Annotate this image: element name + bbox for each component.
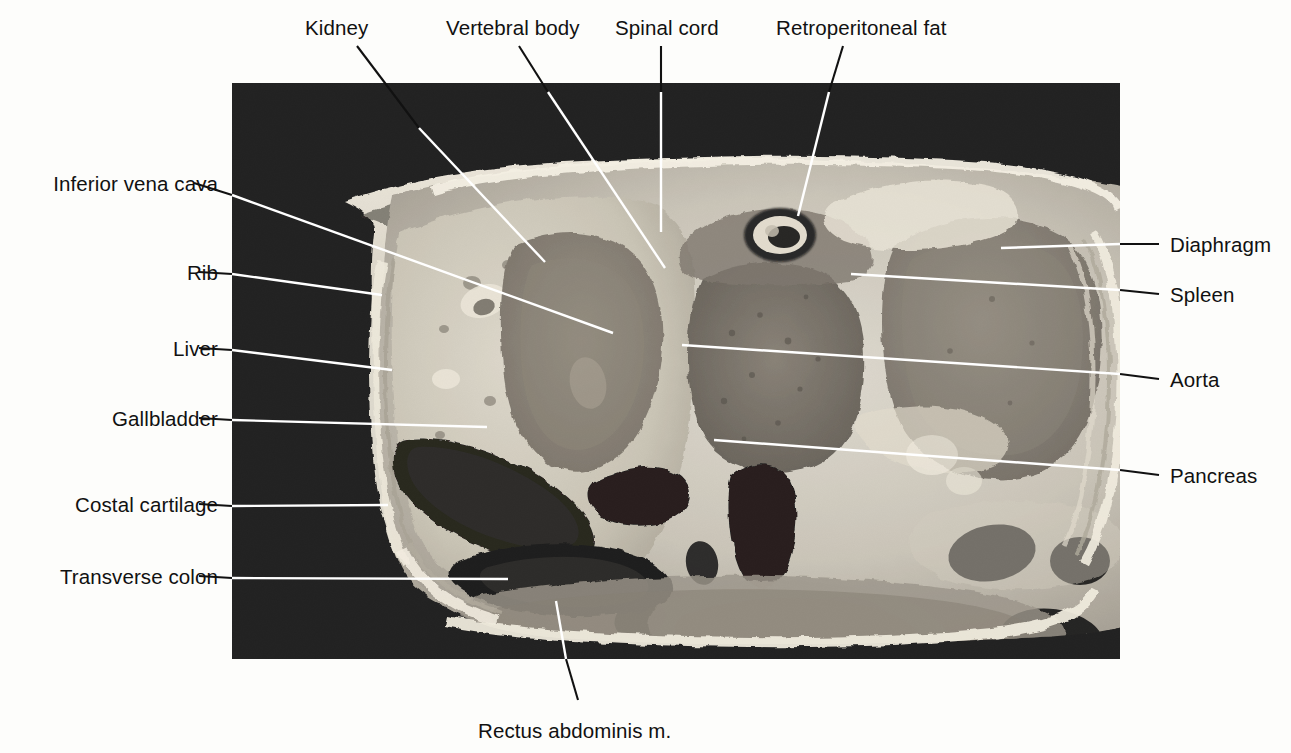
leader-pancreas-outside — [1120, 470, 1159, 475]
specimen-photograph — [232, 83, 1120, 659]
label-gallbladder: Gallbladder — [112, 407, 218, 431]
label-inferior-vena-cava: Inferior vena cava — [53, 172, 218, 196]
label-inferior-vena-cava-text: Inferior vena cava — [53, 172, 218, 195]
label-transverse-colon-text: Transverse colon — [60, 565, 218, 588]
leader-rectus-abdominis-outside — [566, 659, 578, 700]
label-spleen-text: Spleen — [1170, 283, 1234, 306]
cross-section-anatomy — [232, 83, 1120, 659]
label-rectus-abdominis-text: Rectus abdominis m. — [478, 719, 671, 742]
label-rib-text: Rib — [187, 261, 218, 284]
label-retroperitoneal-fat-text: Retroperitoneal fat — [776, 16, 947, 39]
label-rib: Rib — [187, 261, 218, 285]
label-costal-cartilage-text: Costal cartilage — [75, 493, 218, 516]
label-spinal-cord: Spinal cord — [615, 16, 719, 40]
label-rectus-abdominis: Rectus abdominis m. — [478, 719, 671, 743]
label-retroperitoneal-fat: Retroperitoneal fat — [776, 16, 947, 40]
label-liver-text: Liver — [173, 337, 218, 360]
label-diaphragm-text: Diaphragm — [1170, 233, 1271, 256]
leader-aorta-outside — [1120, 374, 1159, 379]
label-vertebral-body-text: Vertebral body — [446, 16, 580, 39]
label-kidney-text: Kidney — [305, 16, 368, 39]
label-liver: Liver — [173, 337, 218, 361]
label-pancreas: Pancreas — [1170, 464, 1257, 488]
anatomical-plate: Kidney Vertebral body Spinal cord Retrop… — [0, 0, 1291, 753]
label-costal-cartilage: Costal cartilage — [75, 493, 218, 517]
label-aorta-text: Aorta — [1170, 368, 1220, 391]
label-vertebral-body: Vertebral body — [446, 16, 580, 40]
label-spinal-cord-text: Spinal cord — [615, 16, 719, 39]
label-transverse-colon: Transverse colon — [60, 565, 218, 589]
label-diaphragm: Diaphragm — [1170, 233, 1271, 257]
leader-spleen-outside — [1120, 290, 1159, 294]
photo-grain-overlay — [232, 83, 1120, 659]
label-spleen: Spleen — [1170, 283, 1234, 307]
label-aorta: Aorta — [1170, 368, 1220, 392]
label-pancreas-text: Pancreas — [1170, 464, 1257, 487]
label-gallbladder-text: Gallbladder — [112, 407, 218, 430]
label-kidney: Kidney — [305, 16, 368, 40]
